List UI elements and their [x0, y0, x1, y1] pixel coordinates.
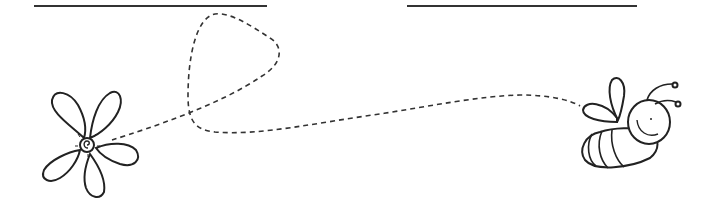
bee-icon: [582, 78, 680, 168]
tracing-canvas: [0, 0, 711, 204]
dashed-trace-path[interactable]: [112, 14, 580, 140]
flower-icon: [43, 92, 138, 197]
